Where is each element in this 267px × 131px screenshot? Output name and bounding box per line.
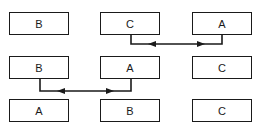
arrowhead-left-icon — [57, 88, 65, 94]
arrowhead-left-icon — [148, 41, 156, 47]
swap-connectors — [0, 0, 267, 131]
swap-arrow-row1 — [131, 35, 222, 44]
arrowhead-right-icon — [106, 88, 114, 94]
swap-arrow-row2 — [40, 79, 131, 91]
arrowhead-right-icon — [197, 41, 205, 47]
